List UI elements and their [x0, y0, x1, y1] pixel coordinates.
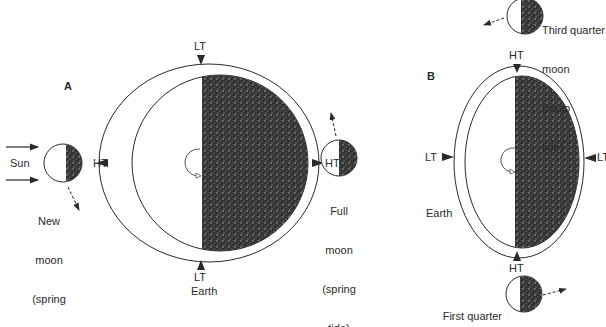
tide-label-right-b: LT	[597, 151, 606, 164]
tide-label-top-b: HT	[509, 49, 524, 62]
third-quarter-label-line3: (neap	[542, 102, 605, 115]
full-moon-orbit-arrow	[331, 113, 336, 136]
third-quarter-orbit-arrow	[484, 18, 504, 25]
third-quarter-label-line1: Third quarter	[542, 24, 605, 37]
tide-marker-top-a	[197, 55, 205, 65]
first-quarter-moon	[506, 274, 566, 314]
first-quarter-label: First quarter moon (neap tide)	[430, 284, 502, 327]
tide-label-top-a: LT	[194, 40, 206, 53]
full-moon-label: Full moon (spring tide)	[314, 179, 364, 327]
full-moon-label-line4: tide)	[314, 322, 364, 327]
earth-label-a: Earth	[191, 285, 217, 298]
first-quarter-label-line1: First quarter	[430, 310, 502, 323]
third-quarter-label-line4: tide)	[542, 141, 605, 154]
tide-marker-bottom-b	[513, 251, 521, 261]
third-quarter-label: Third quarter moon (neap tide)	[542, 0, 605, 167]
third-quarter-label-line2: moon	[542, 63, 605, 76]
first-quarter-orbit-arrow	[543, 289, 566, 295]
full-moon-label-line1: Full	[314, 205, 364, 218]
new-moon-label-line1: New	[22, 215, 76, 228]
new-moon-label-line3: (spring	[22, 293, 76, 306]
new-moon-label-line2: moon	[22, 254, 76, 267]
tide-marker-top-b	[513, 64, 521, 73]
earth-label-b: Earth	[426, 207, 452, 220]
panel-label-b: B	[427, 70, 435, 83]
tide-label-bottom-b: HT	[509, 262, 524, 275]
tide-label-bottom-a: LT	[194, 271, 206, 284]
tide-label-left-b: LT	[425, 151, 437, 164]
tide-label-right-a: HT	[325, 157, 340, 170]
tide-label-left-a: HT	[93, 157, 108, 170]
sun-label: Sun	[10, 157, 30, 170]
full-moon-label-line2: moon	[314, 244, 364, 257]
panel-label-a: A	[64, 80, 72, 93]
tide-marker-left-b	[442, 153, 454, 161]
new-moon-label: New moon (spring tide)	[22, 189, 76, 327]
earth-a	[96, 55, 324, 270]
full-moon-label-line3: (spring	[314, 283, 364, 296]
third-quarter-moon	[484, 0, 545, 36]
